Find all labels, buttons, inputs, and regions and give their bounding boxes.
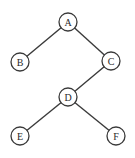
node-a: A [59, 13, 77, 31]
binary-tree-diagram: A B C D E F [0, 0, 135, 158]
node-e-label: E [17, 131, 23, 142]
node-d: D [59, 88, 77, 106]
edges [20, 22, 116, 136]
node-f: F [107, 127, 125, 145]
node-c-label: C [108, 56, 115, 67]
node-a-label: A [64, 17, 72, 28]
nodes: A B C D E F [11, 13, 125, 145]
node-f-label: F [113, 131, 119, 142]
node-e: E [11, 127, 29, 145]
node-c: C [102, 52, 120, 70]
node-b: B [11, 53, 29, 71]
node-d-label: D [64, 92, 71, 103]
node-b-label: B [17, 57, 24, 68]
